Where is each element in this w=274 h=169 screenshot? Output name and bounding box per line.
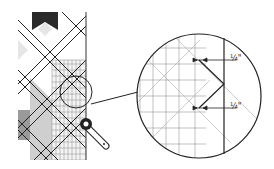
callout-line	[91, 92, 138, 104]
measure-label-bottom: ¼"	[230, 102, 241, 111]
quilt-diagram	[0, 0, 274, 169]
measure-label-top: ¼"	[230, 54, 241, 63]
detail-circle	[110, 30, 261, 160]
